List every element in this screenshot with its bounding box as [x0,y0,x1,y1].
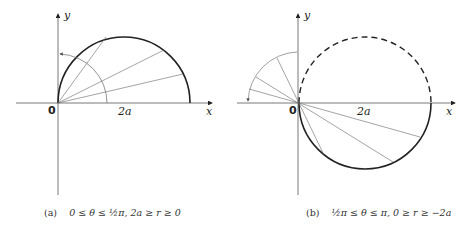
dashed-upper-semicircle-b [299,37,431,103]
ray-a-2 [58,50,164,103]
caption-b: (b) ½π ≤ θ ≤ π, 0 ≥ r ≥ −2a [306,207,451,218]
angle-arc-b [248,52,297,101]
figure-b [237,14,455,195]
caption-text-a: 0 ≤ θ ≤ ½π, 2a ≥ r ≥ 0 [69,207,181,218]
x-axis-label-a: x [206,105,212,118]
tick-label-2a-b: 2a [357,105,371,118]
polar-diagrams [0,0,465,231]
origin-label-b: 0 [289,104,297,117]
caption-tag-a: (a) [44,207,57,218]
ray-b-3 [277,58,324,155]
ray-a-1 [58,74,183,103]
ray-b-2 [256,77,393,162]
caption-text-b: ½π ≤ θ ≤ π, 0 ≥ r ≥ −2a [332,207,452,218]
caption-a: (a) 0 ≤ θ ≤ ½π, 2a ≥ r ≥ 0 [44,207,181,218]
y-axis-label-a: y [64,9,70,22]
angle-arc-a [60,54,107,103]
ray-b-1 [249,89,420,137]
x-axis-label-b: x [446,105,452,118]
ray-a-3 [58,37,106,103]
tick-label-2a-a: 2a [118,105,132,118]
figure-a [16,14,212,195]
origin-label-a: 0 [48,104,56,117]
caption-tag-b: (b) [306,207,320,218]
y-axis-label-b: y [304,9,310,22]
